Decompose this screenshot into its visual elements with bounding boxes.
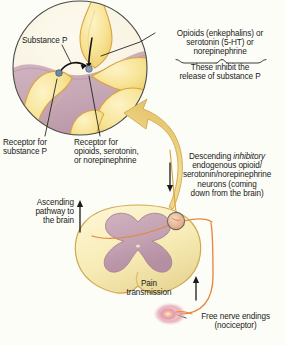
label-free-nerve-endings: Free nerve endings (nociceptor): [186, 312, 285, 330]
descending-rest: endogenous opioid/ serotonin/norepinephr…: [183, 161, 271, 198]
label-ascending-pathway: Ascending pathway to the brain: [8, 198, 74, 226]
label-pain-transmission: Pain transmission: [110, 279, 188, 297]
descending-prefix: Descending: [189, 152, 233, 161]
magnified-synapse-inset: [6, 0, 154, 142]
label-substance-p: Substance P: [22, 36, 67, 45]
receptor-opioid-dot: [86, 66, 93, 73]
label-descending-neurons: Descending inhibitory endogenous opioid/…: [168, 152, 286, 198]
dorsal-horn-synapse-node: [167, 212, 184, 229]
pain-pathway-figure: Substance P Opioids (enkephalins) or ser…: [0, 0, 286, 345]
pain-transmission-arrow: [193, 276, 199, 300]
label-receptor-substance-p: Receptor for substance P: [3, 138, 75, 156]
receptor-substance-p-dot: [56, 70, 63, 77]
label-receptor-opioid: Receptor for opioids, serotonin, or nore…: [74, 138, 166, 166]
label-neurotransmitters: Opioids (enkephalins) or serotonin (5-HT…: [157, 29, 283, 57]
label-inhibition-note: These inhibit the release of substance P: [157, 63, 283, 81]
descending-emphasis: inhibitory: [233, 152, 265, 161]
